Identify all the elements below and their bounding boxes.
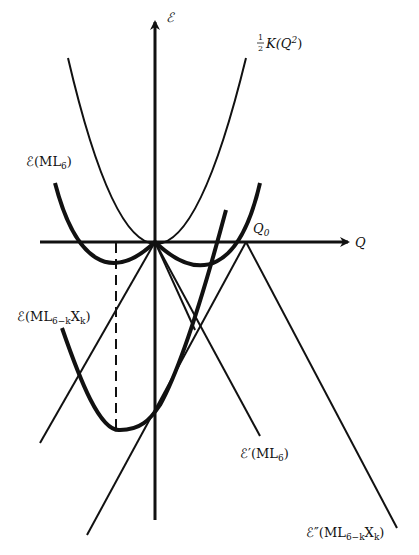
ml6k-double-prime-label: ℰ″(ML6−kXk) bbox=[306, 525, 384, 542]
svg-text:K(Q2): K(Q2) bbox=[265, 35, 302, 51]
ml6k-double-prime-line bbox=[246, 242, 397, 528]
ml6k-tangent-line bbox=[87, 242, 246, 535]
harmonic-curve bbox=[68, 58, 246, 244]
ml6-prime-label: ℰ′(ML6) bbox=[240, 446, 289, 463]
q-axis-label: Q bbox=[355, 235, 366, 250]
harmonic-curve-label: 1 2 K(Q2) bbox=[257, 33, 302, 53]
energy-axis-label: ℰ bbox=[166, 10, 175, 25]
ml6-curve-label: ℰ(ML6) bbox=[26, 154, 72, 171]
q0-label: Q0 bbox=[253, 221, 270, 238]
energy-diagram: ℰ Q Q0 1 2 K(Q2) ℰ(ML6) ℰ(ML6−kXk) ℰ′(ML… bbox=[0, 0, 419, 555]
svg-text:2: 2 bbox=[258, 44, 263, 53]
ml6-curve bbox=[55, 183, 260, 265]
ml6k-curve-label: ℰ(ML6−kXk) bbox=[17, 309, 91, 326]
svg-text:1: 1 bbox=[258, 33, 263, 42]
tangent-line-right bbox=[155, 242, 195, 330]
